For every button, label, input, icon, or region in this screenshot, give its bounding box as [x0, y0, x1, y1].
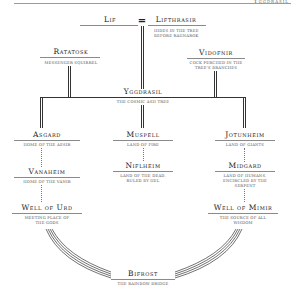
connector-lif-yggdrasil: [141, 26, 144, 89]
midgard-rule: [215, 171, 275, 172]
vidofnir-rule: [187, 58, 245, 59]
connector-muspell-niflheim: [143, 148, 144, 161]
asgard-desc: Home of the Aesir: [24, 142, 71, 147]
vidofnir-desc: Cock perched in the tree's branches: [190, 60, 243, 70]
asgard-rule: [14, 140, 80, 141]
bifrost-arcs: [0, 0, 291, 302]
bifrost-rule: [111, 279, 175, 280]
connector-ratatosk: [68, 66, 71, 97]
node-asgard: Asgard: [33, 131, 61, 139]
connector-asgard-vanaheim: [41, 148, 42, 167]
lif-rule: [80, 25, 138, 26]
midgard-desc: Land of humans, encircled by the serpent: [223, 173, 267, 188]
muspell-rule: [113, 140, 173, 141]
well-of-urd-rule: [12, 213, 82, 214]
bifrost-desc: The rainbow bridge: [118, 281, 169, 286]
node-midgard: Midgard: [228, 162, 261, 170]
yggdrasil-branch-line: [41, 97, 246, 98]
node-muspell: Muspell: [126, 131, 159, 139]
connector-vidofnir: [214, 71, 217, 97]
node-ratatosk: Ratatosk: [54, 48, 89, 56]
marriage-symbol: =: [138, 16, 146, 26]
well-of-urd-desc: Meeting place of the gods: [25, 215, 70, 225]
node-vanaheim: Vanaheim: [29, 168, 66, 176]
node-lif: Lif: [104, 16, 116, 24]
node-bifrost: Bifrost: [128, 270, 158, 278]
well-of-mimir-desc: The source of all wisdom: [220, 215, 267, 225]
connector-jotunheim: [243, 97, 246, 128]
connector-jotunheim-midgard: [244, 148, 245, 162]
node-jotunheim: Jotunheim: [225, 131, 265, 139]
node-lifthrasir: Lifthrasir: [156, 16, 197, 24]
connector-asgard: [40, 97, 43, 128]
well-of-mimir-rule: [208, 213, 278, 214]
ratatosk-rule: [40, 57, 100, 58]
lifthrasir-desc: Hides in the tree before Ragnarok: [154, 28, 199, 38]
niflheim-desc: Land of the dead, ruled by Hel: [120, 173, 166, 183]
niflheim-rule: [113, 171, 173, 172]
node-vidofnir: Vidofnir: [199, 49, 233, 57]
node-niflheim: Niflheim: [125, 162, 160, 170]
lifthrasir-rule: [148, 25, 206, 26]
connector-muspell: [141, 105, 144, 128]
node-yggdrasil: Yggdrasil: [124, 88, 162, 96]
muspell-desc: Land of fire: [127, 142, 159, 147]
connector-vanaheim-urd: [41, 185, 42, 202]
connector-midgard-mimir: [244, 189, 245, 202]
yggdrasil-desc: The cosmic ash tree: [117, 99, 170, 104]
ratatosk-desc: Messenger squirrel: [45, 60, 98, 65]
vanaheim-desc: Home of the Vanir: [23, 179, 70, 184]
vanaheim-rule: [14, 177, 80, 178]
jotunheim-rule: [215, 140, 275, 141]
node-well-of-urd: Well of Urd: [21, 204, 72, 212]
node-well-of-mimir: Well of Mimir: [214, 204, 273, 212]
jotunheim-desc: Land of giants: [226, 142, 264, 147]
